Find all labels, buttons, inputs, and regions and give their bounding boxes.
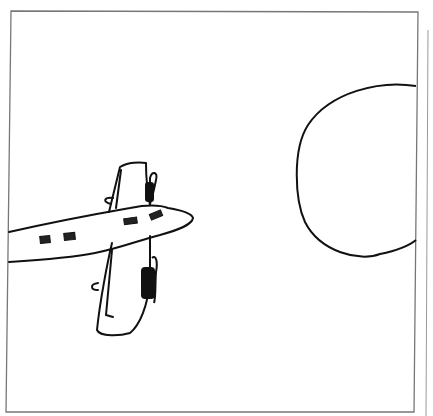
upper-wing: [109, 162, 150, 212]
drawing-canvas: [0, 0, 433, 416]
lower-engine-nub: [92, 283, 98, 290]
edge-line: [426, 30, 428, 416]
fuselage: [9, 205, 193, 262]
window: [40, 235, 51, 243]
window: [64, 232, 76, 240]
airplane: [9, 162, 193, 335]
window: [149, 210, 162, 220]
lower-wing-flap: [106, 250, 113, 317]
window: [124, 217, 138, 225]
sun-circle: [297, 85, 416, 257]
picture-frame: [6, 11, 418, 412]
